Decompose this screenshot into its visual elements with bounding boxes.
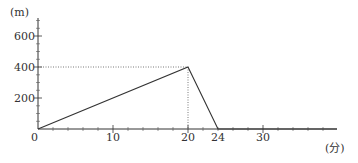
y-tick-label-200: 200 [14, 92, 35, 105]
y-tick-label-600: 600 [14, 30, 35, 43]
origin-label: 0 [31, 131, 38, 144]
y-unit-label: (m) [10, 6, 29, 19]
x-tick-label-10: 10 [106, 131, 120, 144]
x-unit-label: (分) [325, 142, 345, 155]
x-tick-label-20: 20 [181, 131, 195, 144]
distance-line [38, 67, 337, 129]
x-tick-label-30: 30 [256, 131, 270, 144]
x-tick-label-24: 24 [211, 131, 225, 144]
y-tick-label-400: 400 [14, 61, 35, 74]
distance-time-chart: (m) 600 400 200 0 10 20 24 30 (分) [0, 0, 358, 163]
